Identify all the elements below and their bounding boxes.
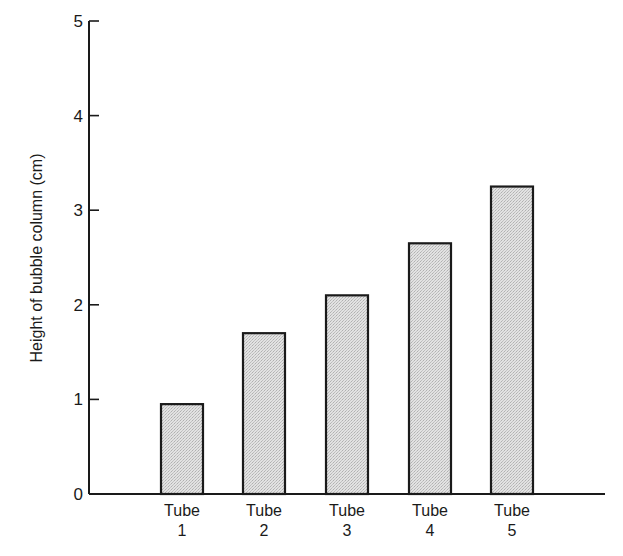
x-category-label: 1 bbox=[178, 522, 187, 539]
x-category-label: Tube bbox=[329, 502, 365, 519]
y-tick-label: 0 bbox=[74, 485, 83, 504]
x-category-label: Tube bbox=[412, 502, 448, 519]
y-tick-label: 5 bbox=[74, 12, 83, 31]
y-tick-label: 1 bbox=[74, 390, 83, 409]
y-axis-label: Height of bubble column (cm) bbox=[28, 154, 45, 363]
x-category-label: 2 bbox=[260, 522, 269, 539]
x-category-label: 3 bbox=[343, 522, 352, 539]
y-tick-label: 4 bbox=[74, 107, 83, 126]
bar-tube-5 bbox=[491, 187, 533, 494]
x-category-label: Tube bbox=[494, 502, 530, 519]
bar-tube-1 bbox=[161, 404, 203, 494]
x-category-label: 4 bbox=[426, 522, 435, 539]
bar-tube-3 bbox=[326, 295, 368, 494]
y-axis: 012345 bbox=[74, 12, 99, 504]
bar-tube-2 bbox=[243, 333, 285, 494]
x-category-label: Tube bbox=[246, 502, 282, 519]
y-tick-label: 2 bbox=[74, 296, 83, 315]
bar-chart: 012345 Tube1Tube2Tube3Tube4Tube5 Height … bbox=[0, 0, 623, 556]
y-tick-label: 3 bbox=[74, 201, 83, 220]
x-category-label: 5 bbox=[508, 522, 517, 539]
bar-tube-4 bbox=[409, 243, 451, 494]
x-axis: Tube1Tube2Tube3Tube4Tube5 bbox=[89, 494, 605, 539]
bars bbox=[161, 187, 533, 494]
x-category-label: Tube bbox=[164, 502, 200, 519]
